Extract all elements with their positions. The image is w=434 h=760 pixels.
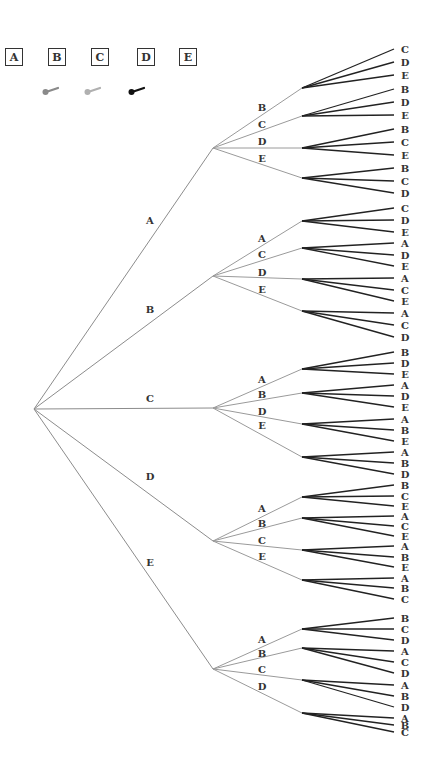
level1-edge: [34, 409, 213, 541]
level2-edge-label: B: [258, 389, 266, 400]
leaf-label: A: [400, 646, 409, 657]
leaf-edge: [302, 279, 394, 301]
leaf-edge: [302, 580, 394, 599]
leaf-label: D: [401, 188, 410, 199]
leaf-edge: [302, 713, 394, 725]
level1-edge-label: B: [146, 304, 154, 315]
leaf-label: A: [400, 273, 409, 284]
leaf-label: E: [401, 296, 409, 307]
leaf-label: D: [401, 97, 410, 108]
level2-edge-label: B: [258, 648, 266, 659]
level1-edge: [34, 148, 213, 409]
leaf-edge: [302, 518, 394, 536]
leaf-label: D: [401, 332, 410, 343]
leaf-edge: [302, 516, 394, 518]
level2-edge-label: A: [257, 233, 266, 244]
leaf-label: A: [400, 238, 409, 249]
leaf-edge: [302, 580, 394, 588]
leaf-edge: [302, 102, 394, 116]
leaf-label: E: [401, 402, 409, 413]
leaf-label: C: [401, 203, 409, 214]
leaf-label: B: [401, 613, 409, 624]
level2-edge-label: D: [258, 681, 267, 692]
leaf-label: B: [401, 583, 409, 594]
leaf-label: B: [401, 84, 409, 95]
leaf-label: E: [401, 110, 409, 121]
leaf-edge: [302, 168, 394, 178]
leaf-edge: [302, 208, 394, 221]
leaf-label: B: [401, 124, 409, 135]
level1-edge-label: D: [146, 471, 155, 482]
leaf-label: B: [401, 691, 409, 702]
level2-edge-label: C: [258, 664, 266, 675]
leaf-label: D: [401, 668, 410, 679]
leaf-label: E: [401, 70, 409, 81]
leaf-label: E: [401, 150, 409, 161]
leaf-edge: [302, 497, 394, 506]
leaf-label: D: [401, 702, 410, 713]
leaf-label: C: [401, 44, 409, 55]
leaf-edge: [302, 248, 394, 255]
leaf-label: A: [400, 380, 409, 391]
leaf-label: A: [400, 308, 409, 319]
level2-edge-label: A: [257, 374, 266, 385]
tree-diagram: ABCDECBDEDBCEEBCDBACDECADEDACEEACDCABDEB…: [0, 0, 434, 760]
leaf-label: B: [401, 458, 409, 469]
level2-edge-label: C: [258, 535, 266, 546]
leaf-label: E: [401, 261, 409, 272]
leaf-label: B: [401, 163, 409, 174]
leaf-edge: [302, 452, 394, 457]
leaf-edge: [302, 518, 394, 526]
level2-edge-label: C: [258, 249, 266, 260]
leaf-edge: [302, 578, 394, 580]
leaf-edge: [302, 248, 394, 266]
leaf-label: E: [401, 436, 409, 447]
level2-edge-label: E: [258, 153, 266, 164]
level2-edge-label: D: [258, 136, 267, 147]
leaf-label: B: [401, 425, 409, 436]
level2-edge-label: E: [258, 420, 266, 431]
level2-edge-label: C: [258, 119, 266, 130]
leaf-label: C: [401, 285, 409, 296]
level2-edge-label: D: [258, 406, 267, 417]
leaf-label: C: [401, 320, 409, 331]
level1-edge: [34, 276, 213, 409]
level2-edge-label: A: [257, 634, 266, 645]
leaf-label: D: [401, 215, 410, 226]
level1-edge-label: A: [145, 215, 154, 226]
leaf-label: A: [400, 447, 409, 458]
leaf-edge: [302, 496, 394, 497]
leaf-edge: [302, 550, 394, 567]
leaf-edge: [302, 148, 394, 155]
leaf-label: A: [400, 414, 409, 425]
leaf-label: C: [401, 624, 409, 635]
leaf-label: D: [401, 57, 410, 68]
level1-edge-label: C: [146, 393, 154, 404]
level2-edge-label: E: [258, 284, 266, 295]
leaf-label: E: [401, 227, 409, 238]
level2-edge-label: E: [258, 551, 266, 562]
leaf-edge: [302, 550, 394, 557]
leaf-label: D: [401, 358, 410, 369]
leaf-label: A: [400, 680, 409, 691]
leaf-edge: [302, 115, 394, 116]
level1-edge-label: E: [146, 557, 154, 568]
leaf-label: C: [401, 176, 409, 187]
leaf-edge: [302, 311, 394, 337]
leaf-edge: [302, 62, 394, 88]
level1-edge: [34, 408, 213, 409]
level2-edge-label: D: [258, 267, 267, 278]
leaf-label: A: [400, 541, 409, 552]
leaf-label: C: [401, 727, 409, 738]
leaf-edge: [302, 243, 394, 248]
leaf-edge: [302, 279, 394, 290]
leaf-label: B: [401, 347, 409, 358]
level2-edge-label: B: [258, 102, 266, 113]
leaf-label: C: [401, 594, 409, 605]
leaf-label: C: [401, 137, 409, 148]
leaf-edge: [302, 419, 394, 424]
leaf-label: D: [401, 250, 410, 261]
leaf-edge: [302, 546, 394, 550]
leaf-edge: [302, 220, 394, 221]
leaf-edge: [302, 369, 394, 374]
